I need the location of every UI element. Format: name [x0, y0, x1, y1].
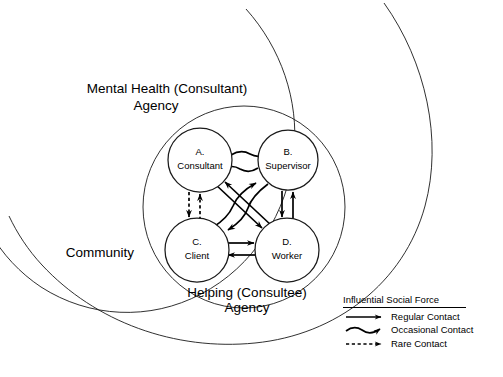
legend-label-regular: Regular Contact — [391, 311, 460, 322]
zone-label-mental-health-agency-line1: Mental Health (Consultant) — [87, 81, 248, 96]
node-name-supervisor: Supervisor — [265, 160, 310, 171]
social-force-diagram: A. Consultant B. Supervisor C. Client D.… — [0, 0, 503, 377]
node-name-consultant: Consultant — [177, 160, 223, 171]
node-name-worker: Worker — [272, 250, 302, 261]
node-letter-B: B. — [284, 146, 293, 157]
node-consultant[interactable]: A. Consultant — [168, 128, 232, 192]
legend-title: Influential Social Force — [343, 294, 439, 305]
node-name-client: Client — [185, 250, 210, 261]
zone-label-community: Community — [66, 245, 135, 260]
zone-label-mental-health-agency-line2: Agency — [133, 98, 178, 113]
node-letter-D: D. — [282, 236, 292, 247]
node-letter-C: C. — [192, 236, 202, 247]
legend-label-occasional: Occasional Contact — [391, 324, 474, 335]
node-client[interactable]: C. Client — [165, 218, 229, 282]
zone-label-helping-agency-line2: Agency — [224, 300, 269, 315]
node-letter-A: A. — [196, 146, 205, 157]
node-worker[interactable]: D. Worker — [255, 218, 319, 282]
zone-label-helping-agency-line1: Helping (Consultee) — [187, 285, 306, 300]
node-supervisor[interactable]: B. Supervisor — [258, 130, 318, 190]
legend-label-rare: Rare Contact — [391, 338, 447, 349]
diagram-canvas: A. Consultant B. Supervisor C. Client D.… — [0, 0, 503, 377]
